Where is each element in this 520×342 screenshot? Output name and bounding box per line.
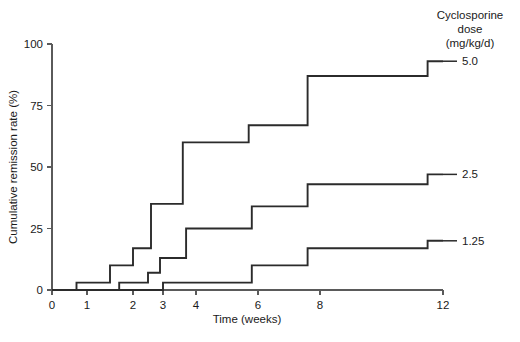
series-label-1.25: 1.25 <box>462 235 484 247</box>
x-tick-label-6: 6 <box>255 299 261 311</box>
y-axis-title: Cumulative remission rate (%) <box>7 90 19 244</box>
series-label-2.5: 2.5 <box>462 168 478 180</box>
x-tick-label-1: 1 <box>84 299 90 311</box>
x-tick-label-0: 0 <box>49 299 55 311</box>
x-tick-label-4: 4 <box>193 299 200 311</box>
legend-title-line-2: dose <box>458 23 483 35</box>
x-axis-title: Time (weeks) <box>213 313 282 325</box>
series-line-5.0 <box>52 61 443 290</box>
y-tick-label-75: 75 <box>30 100 43 112</box>
y-tick-label-100: 100 <box>24 38 43 50</box>
y-axis-tick-labels: 0255075100 <box>24 38 43 296</box>
y-tick-label-25: 25 <box>30 223 43 235</box>
series-leader-lines <box>443 61 457 241</box>
data-series-group <box>52 61 443 290</box>
x-tick-label-3: 3 <box>160 299 166 311</box>
step-chart-svg: 0255075100 012346812 5.02.51.25 Time (we… <box>0 0 520 342</box>
legend-title: Cyclosporine dose (mg/kg/d) <box>437 9 503 49</box>
x-tick-label-8: 8 <box>317 299 323 311</box>
y-axis-ticks <box>47 44 52 290</box>
legend-title-line-1: Cyclosporine <box>437 9 503 21</box>
legend-title-line-3: (mg/kg/d) <box>446 37 495 49</box>
y-tick-label-50: 50 <box>30 161 43 173</box>
series-labels-group: 5.02.51.25 <box>462 55 484 247</box>
x-axis-tick-labels: 012346812 <box>49 299 450 311</box>
y-tick-label-0: 0 <box>37 284 43 296</box>
chart-figure: 0255075100 012346812 5.02.51.25 Time (we… <box>0 0 520 342</box>
x-tick-label-12: 12 <box>437 299 450 311</box>
series-label-5.0: 5.0 <box>462 55 478 67</box>
x-tick-label-2: 2 <box>130 299 136 311</box>
